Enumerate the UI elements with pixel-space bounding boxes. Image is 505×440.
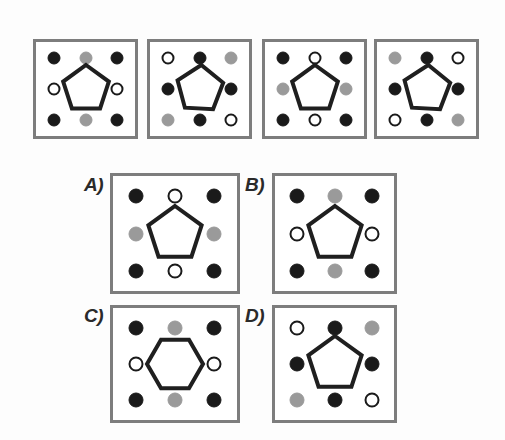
answer-options-grid: A)B)C)D) (0, 0, 505, 440)
label-option-a: A) (84, 174, 103, 196)
panel-content (113, 176, 237, 291)
center-pentagon-icon (135, 194, 215, 274)
panel-content (113, 308, 237, 420)
label-option-b: B) (245, 174, 264, 196)
center-hexagon-icon (135, 324, 215, 404)
panel-content (275, 176, 394, 291)
label-option-d: D) (245, 305, 264, 327)
option-option-d[interactable] (272, 305, 397, 423)
panel-content (275, 308, 394, 420)
option-option-c[interactable] (110, 305, 240, 423)
center-pentagon-icon (295, 324, 375, 404)
option-option-b[interactable] (272, 173, 397, 294)
label-option-c: C) (84, 305, 103, 327)
option-option-a[interactable] (110, 173, 240, 294)
center-pentagon-icon (295, 194, 375, 274)
